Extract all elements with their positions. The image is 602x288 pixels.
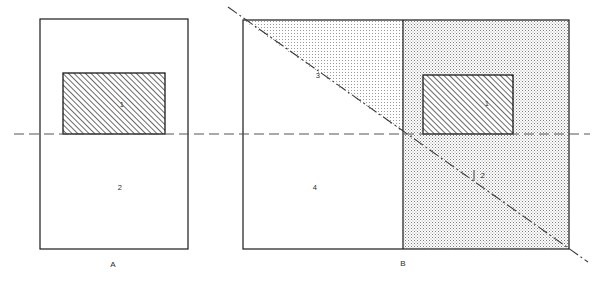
label-region-1-panel-a: 1: [120, 101, 124, 109]
label-region-1-panel-b: 1: [485, 100, 489, 108]
label-region-3-panel-b: 3: [316, 72, 320, 80]
caption-panel-a: A: [110, 261, 115, 269]
label-region-4-panel-b: 4: [313, 184, 317, 192]
panel-a-hatched-block: [63, 73, 165, 134]
panel-b-hatched-block: [423, 75, 513, 134]
label-region-2-panel-a: 2: [118, 184, 122, 192]
figure-canvas: [0, 0, 602, 288]
caption-panel-b: B: [400, 260, 405, 268]
figure-container: 1 2 A 1 2 3 4 B: [0, 0, 602, 288]
label-region-2-panel-b: 2: [481, 172, 485, 180]
